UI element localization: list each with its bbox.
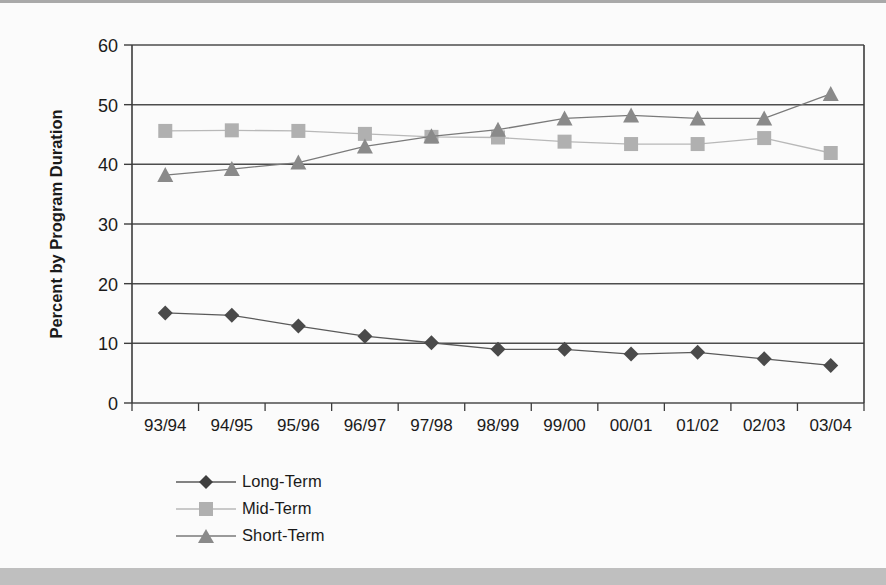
y-axis-title: Percent by Program Duration: [47, 109, 65, 338]
y-axis-tick-label: 30: [98, 215, 118, 235]
data-point-diamond: [158, 305, 173, 320]
data-point-square: [624, 137, 638, 151]
y-axis-tick-label: 0: [108, 394, 118, 414]
data-point-square: [558, 135, 572, 149]
square-marker-icon: [170, 499, 242, 519]
data-point-diamond: [357, 329, 372, 344]
data-point-diamond: [757, 351, 772, 366]
data-point-triangle: [823, 86, 839, 101]
diamond-marker-icon: [170, 472, 242, 492]
y-axis-tick-label: 50: [98, 96, 118, 116]
x-axis-tick-label: 96/97: [344, 416, 387, 435]
legend-label-short-term: Short-Term: [242, 526, 325, 545]
legend-label-mid-term: Mid-Term: [242, 499, 312, 518]
legend-item-mid-term: Mid-Term: [170, 495, 500, 522]
x-axis-tick-label: 94/95: [211, 416, 254, 435]
series-line: [165, 313, 830, 366]
x-axis-tick-label: 03/04: [809, 416, 852, 435]
y-axis-tick-label: 60: [98, 36, 118, 56]
page-background: 010203040506093/9494/9595/9696/9797/9898…: [0, 0, 886, 585]
x-axis-tick-label: 97/98: [410, 416, 453, 435]
data-point-square: [824, 146, 838, 160]
data-point-square: [158, 124, 172, 138]
x-axis-tick-label: 99/00: [543, 416, 586, 435]
bottom-band: [0, 568, 886, 585]
series-short-term: [157, 86, 838, 182]
x-axis-tick-label: 02/03: [743, 416, 786, 435]
x-axis-tick-label: 95/96: [277, 416, 320, 435]
legend-item-short-term: Short-Term: [170, 522, 500, 549]
data-point-triangle: [290, 155, 306, 170]
x-axis-tick-label: 93/94: [144, 416, 187, 435]
data-point-square: [691, 137, 705, 151]
chart-legend: Long-Term Mid-Term Short-Term: [170, 468, 500, 549]
x-axis-tick-label: 01/02: [676, 416, 719, 435]
x-axis-tick-label: 00/01: [610, 416, 653, 435]
y-axis-tick-label: 10: [98, 334, 118, 354]
data-point-triangle: [623, 107, 639, 122]
data-point-square: [291, 124, 305, 138]
legend-label-long-term: Long-Term: [242, 472, 322, 491]
y-axis-tick-label: 20: [98, 275, 118, 295]
x-axis-tick-label: 98/99: [477, 416, 520, 435]
data-point-diamond: [224, 308, 239, 323]
data-point-diamond: [424, 335, 439, 350]
legend-item-long-term: Long-Term: [170, 468, 500, 495]
y-axis-tick-label: 40: [98, 155, 118, 175]
data-point-diamond: [823, 358, 838, 373]
data-point-square: [225, 123, 239, 137]
data-point-diamond: [624, 347, 639, 362]
data-point-square: [757, 131, 771, 145]
data-point-diamond: [291, 319, 306, 334]
triangle-marker-icon: [170, 526, 242, 546]
x-axis-group: 93/9494/9595/9696/9797/9898/9999/0000/01…: [132, 403, 864, 435]
series-long-term: [158, 305, 838, 373]
data-point-diamond: [690, 345, 705, 360]
